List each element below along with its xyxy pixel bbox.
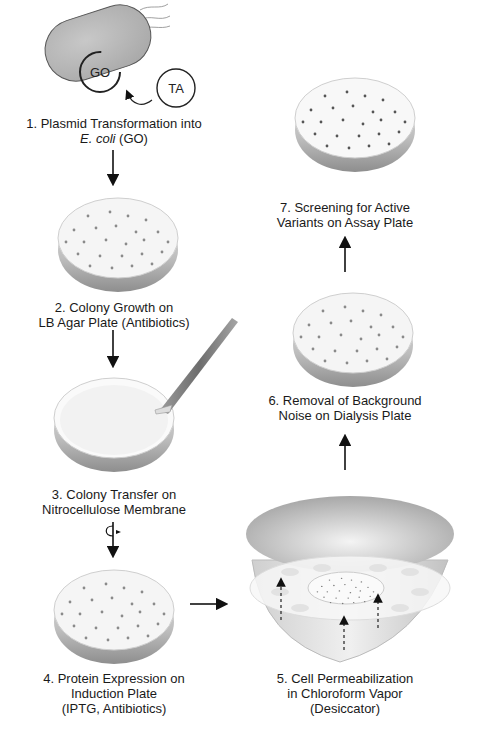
svg-text:TA: TA bbox=[168, 81, 184, 96]
diagram-artwork: GO TA bbox=[0, 0, 480, 740]
step-2-line2: LB Agar Plate (Antibiotics) bbox=[14, 315, 214, 330]
step-4-line1: 4. Protein Expression on bbox=[14, 671, 214, 686]
step-1-line1: 1. Plasmid Transformation into bbox=[14, 116, 214, 131]
desiccator-icon bbox=[246, 496, 454, 662]
petri-dish-icon bbox=[54, 378, 174, 472]
step-3-label: 3. Colony Transfer on Nitrocellulose Mem… bbox=[14, 487, 214, 517]
step-5-label: 5. Cell Permeabilization in Chloroform V… bbox=[245, 671, 445, 716]
step-6-label: 6. Removal of Background Noise on Dialys… bbox=[245, 393, 445, 423]
step-4-label: 4. Protein Expression on Induction Plate… bbox=[14, 671, 214, 716]
workflow-diagram: GO TA bbox=[0, 0, 480, 740]
organism-name: E. coli bbox=[80, 131, 115, 146]
step-1-line2: E. coli (GO) bbox=[14, 131, 214, 146]
petri-dish-icon bbox=[293, 293, 413, 387]
step-3-line2: Nitrocellulose Membrane bbox=[14, 502, 214, 517]
step-2-label: 2. Colony Growth on LB Agar Plate (Antib… bbox=[14, 300, 214, 330]
petri-dish-icon bbox=[58, 198, 178, 292]
step-5-line1: 5. Cell Permeabilization bbox=[245, 671, 445, 686]
petri-dish-icon bbox=[295, 78, 415, 172]
step-7-line2: Variants on Assay Plate bbox=[245, 215, 445, 230]
step-6-line1: 6. Removal of Background bbox=[245, 393, 445, 408]
step-2-line1: 2. Colony Growth on bbox=[14, 300, 214, 315]
petri-dish-icon bbox=[54, 570, 174, 664]
plasmid-name: (GO) bbox=[115, 131, 148, 146]
step-5-line2: in Chloroform Vapor bbox=[245, 686, 445, 701]
step-4-line2: Induction Plate bbox=[14, 686, 214, 701]
step-5-line3: (Desiccator) bbox=[245, 701, 445, 716]
step-3-line1: 3. Colony Transfer on bbox=[14, 487, 214, 502]
step-7-label: 7. Screening for Active Variants on Assa… bbox=[245, 200, 445, 230]
svg-text:GO: GO bbox=[90, 65, 110, 80]
step-1-label: 1. Plasmid Transformation into E. coli (… bbox=[14, 116, 214, 146]
step-4-line3: (IPTG, Antibiotics) bbox=[14, 701, 214, 716]
step-6-line2: Noise on Dialysis Plate bbox=[245, 408, 445, 423]
step-7-line1: 7. Screening for Active bbox=[245, 200, 445, 215]
